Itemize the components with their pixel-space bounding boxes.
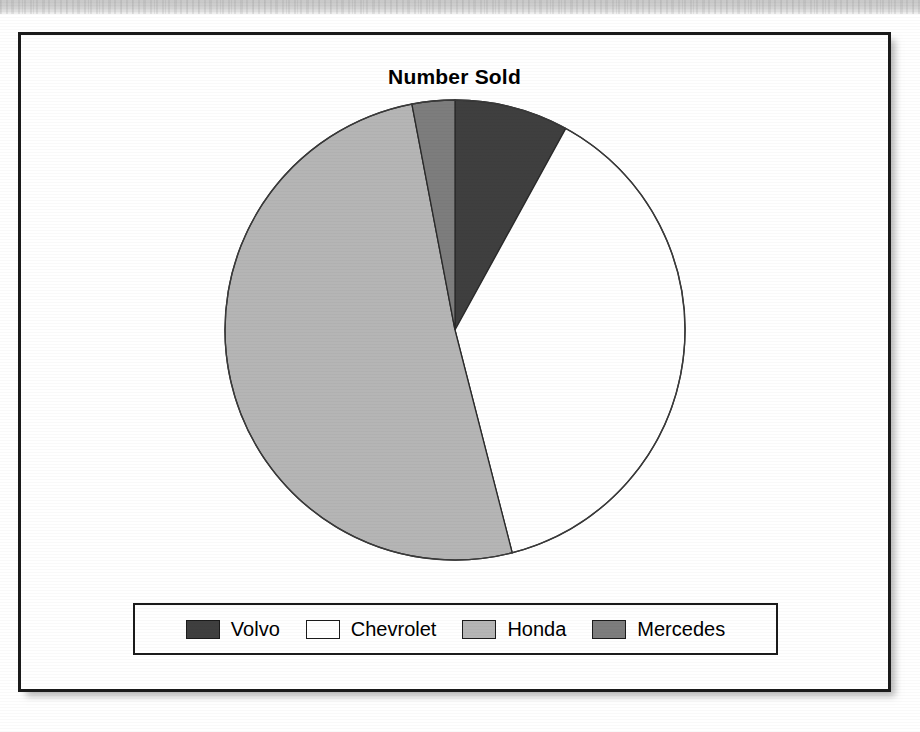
legend-label-chevrolet: Chevrolet — [351, 618, 437, 641]
legend-swatch-chevrolet — [306, 620, 340, 639]
legend-item-mercedes[interactable]: Mercedes — [592, 618, 725, 641]
pie-chart-area — [21, 95, 888, 585]
chart-frame: Number Sold VolvoChevroletHondaMercedes — [18, 32, 891, 692]
legend-label-mercedes: Mercedes — [637, 618, 725, 641]
legend-swatch-volvo — [186, 620, 220, 639]
legend-item-honda[interactable]: Honda — [462, 618, 566, 641]
chart-title: Number Sold — [21, 65, 888, 89]
pie-chart-svg — [220, 95, 690, 565]
scan-top-band — [0, 0, 920, 14]
scan-band-texture — [0, 0, 920, 14]
legend-label-honda: Honda — [507, 618, 566, 641]
legend-item-volvo[interactable]: Volvo — [186, 618, 280, 641]
legend-item-chevrolet[interactable]: Chevrolet — [306, 618, 437, 641]
chart-legend: VolvoChevroletHondaMercedes — [133, 603, 778, 655]
legend-swatch-honda — [462, 620, 496, 639]
legend-label-volvo: Volvo — [231, 618, 280, 641]
legend-swatch-mercedes — [592, 620, 626, 639]
